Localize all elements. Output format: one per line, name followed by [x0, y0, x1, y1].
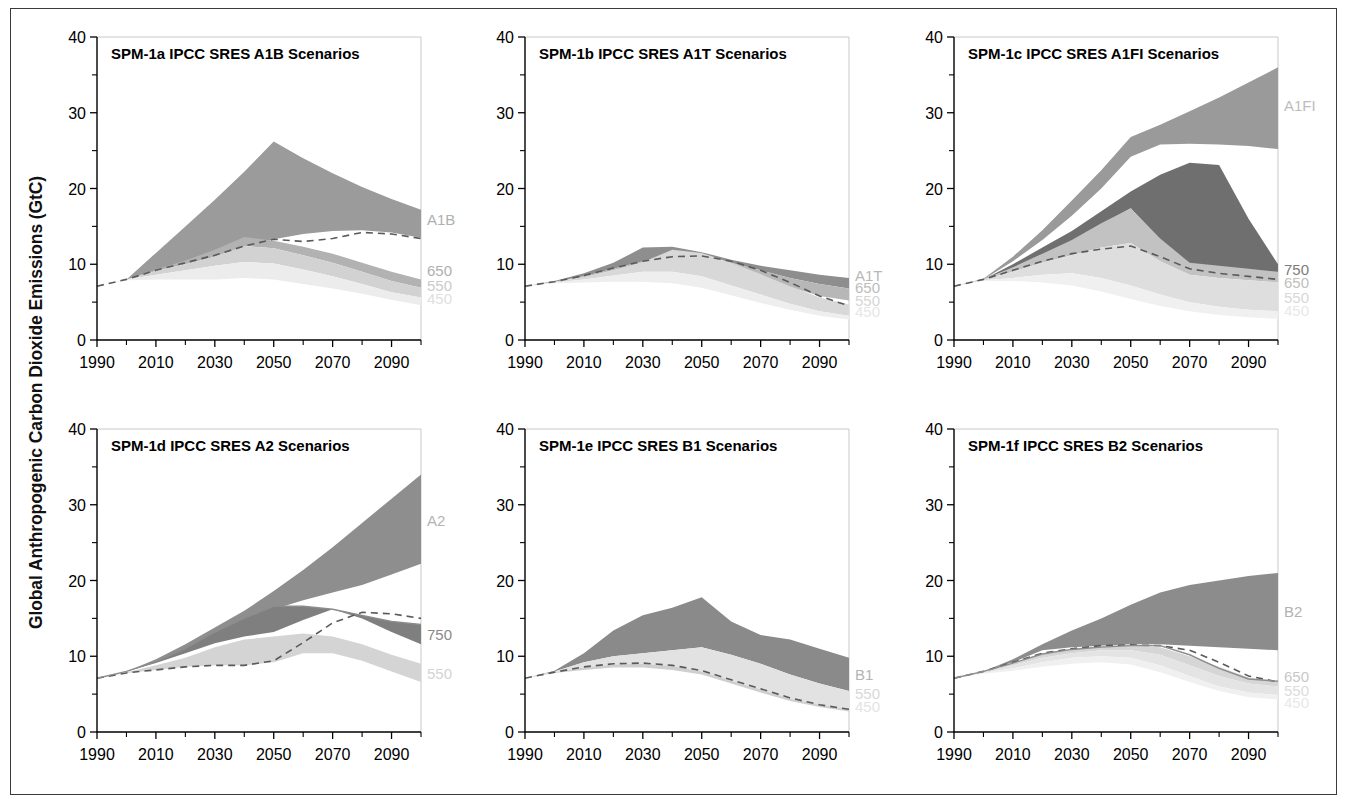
y-tick-label: 40 — [497, 421, 515, 438]
chart-svg-spm-1d: 010203040199020102030205020702090SPM-1d … — [51, 403, 479, 794]
side-label-450: 450 — [427, 290, 452, 307]
x-tick-label: 2030 — [197, 746, 233, 763]
x-tick-label: 1990 — [79, 354, 115, 371]
x-axis-ticks: 199020102030205020702090 — [936, 340, 1278, 371]
y-tick-label: 20 — [68, 572, 86, 589]
x-tick-label: 2070 — [315, 746, 351, 763]
band-group — [525, 597, 849, 711]
band-group — [525, 247, 849, 320]
chart-panel-spm-1d: 010203040199020102030205020702090SPM-1d … — [51, 403, 479, 795]
x-tick-label: 2070 — [743, 746, 779, 763]
y-axis-ticks: 010203040 — [497, 421, 526, 741]
y-tick-label: 30 — [68, 105, 86, 122]
y-tick-label: 30 — [68, 496, 86, 513]
y-tick-label: 0 — [505, 332, 514, 349]
x-tick-label: 2070 — [315, 354, 351, 371]
x-tick-label: 2090 — [1230, 354, 1266, 371]
panel-title: SPM-1b IPCC SRES A1T Scenarios — [539, 45, 787, 62]
x-axis-ticks: 199020102030205020702090 — [79, 732, 421, 763]
y-tick-label: 10 — [925, 256, 943, 273]
side-label-group: B2650550450 — [1284, 602, 1309, 710]
y-tick-label: 40 — [497, 29, 515, 46]
y-tick-label: 40 — [68, 29, 86, 46]
side-label-A1FI: A1FI — [1284, 97, 1316, 114]
y-tick-label: 40 — [68, 421, 86, 438]
band-group — [954, 67, 1278, 318]
panel-title: SPM-1e IPCC SRES B1 Scenarios — [539, 437, 777, 454]
y-tick-label: 10 — [925, 648, 943, 665]
y-axis-ticks: 010203040 — [925, 29, 954, 349]
side-label-750: 750 — [427, 625, 452, 642]
x-tick-label: 2030 — [1054, 746, 1090, 763]
y-tick-label: 0 — [77, 724, 86, 741]
x-tick-label: 2010 — [566, 354, 602, 371]
chart-svg-spm-1e: 010203040199020102030205020702090SPM-1e … — [479, 403, 907, 794]
x-tick-label: 2050 — [1113, 354, 1149, 371]
side-label-A2: A2 — [427, 511, 445, 528]
side-label-B2: B2 — [1284, 602, 1302, 619]
y-tick-label: 30 — [497, 496, 515, 513]
y-tick-label: 40 — [925, 421, 943, 438]
x-tick-label: 2050 — [256, 746, 292, 763]
y-tick-label: 0 — [77, 332, 86, 349]
y-axis-ticks: 010203040 — [497, 29, 526, 349]
chart-panel-spm-1f: 010203040199020102030205020702090SPM-1f … — [908, 403, 1336, 795]
x-axis-ticks: 199020102030205020702090 — [936, 732, 1278, 763]
x-axis-ticks: 199020102030205020702090 — [508, 340, 850, 371]
y-axis-ticks: 010203040 — [925, 421, 954, 741]
x-tick-label: 2050 — [684, 354, 720, 371]
panel-title: SPM-1c IPCC SRES A1FI Scenarios — [968, 45, 1219, 62]
chart-svg-spm-1c: 010203040199020102030205020702090SPM-1c … — [908, 11, 1336, 402]
chart-svg-spm-1b: 010203040199020102030205020702090SPM-1b … — [479, 11, 907, 402]
x-tick-label: 2090 — [802, 354, 838, 371]
side-label-450: 450 — [1284, 693, 1309, 710]
side-label-450: 450 — [855, 303, 880, 320]
y-tick-label: 20 — [68, 181, 86, 198]
x-axis-ticks: 199020102030205020702090 — [508, 732, 850, 763]
y-tick-label: 10 — [497, 648, 515, 665]
y-axis-ticks: 010203040 — [68, 421, 97, 741]
panel-title: SPM-1a IPCC SRES A1B Scenarios — [111, 45, 360, 62]
x-tick-label: 2010 — [995, 746, 1031, 763]
side-label-450: 450 — [1284, 302, 1309, 319]
band-group — [97, 142, 421, 306]
y-tick-label: 30 — [497, 105, 515, 122]
chart-svg-spm-1f: 010203040199020102030205020702090SPM-1f … — [908, 403, 1336, 794]
x-tick-label: 2010 — [566, 746, 602, 763]
chart-panel-spm-1b: 010203040199020102030205020702090SPM-1b … — [479, 11, 907, 403]
x-tick-label: 2050 — [256, 354, 292, 371]
x-tick-label: 2030 — [197, 354, 233, 371]
side-label-group: B1550450 — [855, 666, 880, 715]
panel-title: SPM-1d IPCC SRES A2 Scenarios — [111, 437, 350, 454]
x-tick-label: 2030 — [625, 354, 661, 371]
y-tick-label: 20 — [497, 181, 515, 198]
x-tick-label: 2050 — [684, 746, 720, 763]
y-tick-label: 10 — [68, 648, 86, 665]
x-axis-ticks: 199020102030205020702090 — [79, 340, 421, 371]
x-tick-label: 1990 — [508, 746, 544, 763]
x-tick-label: 2070 — [1171, 746, 1207, 763]
chart-svg-spm-1a: 010203040199020102030205020702090SPM-1a … — [51, 11, 479, 402]
y-tick-label: 20 — [925, 181, 943, 198]
x-tick-label: 2010 — [138, 746, 174, 763]
side-label-B1: B1 — [855, 666, 873, 683]
y-tick-label: 20 — [497, 572, 515, 589]
chart-panel-spm-1e: 010203040199020102030205020702090SPM-1e … — [479, 403, 907, 795]
x-tick-label: 2090 — [1230, 746, 1266, 763]
y-tick-label: 10 — [497, 256, 515, 273]
y-tick-label: 0 — [934, 332, 943, 349]
y-tick-label: 20 — [925, 572, 943, 589]
panel-title: SPM-1f IPCC SRES B2 Scenarios — [968, 437, 1203, 454]
x-tick-label: 2070 — [743, 354, 779, 371]
figure-frame: Global Anthropogenic Carbon Dioxide Emis… — [10, 8, 1337, 795]
y-tick-label: 30 — [925, 496, 943, 513]
x-tick-label: 2090 — [374, 354, 410, 371]
side-label-group: A1B650550450 — [427, 211, 455, 307]
y-tick-label: 0 — [505, 724, 514, 741]
band-group — [954, 572, 1278, 699]
band-550 — [97, 633, 421, 681]
x-tick-label: 2030 — [1054, 354, 1090, 371]
chart-panel-spm-1c: 010203040199020102030205020702090SPM-1c … — [908, 11, 1336, 403]
side-label-A1B: A1B — [427, 211, 455, 228]
panel-grid: 010203040199020102030205020702090SPM-1a … — [51, 11, 1336, 794]
